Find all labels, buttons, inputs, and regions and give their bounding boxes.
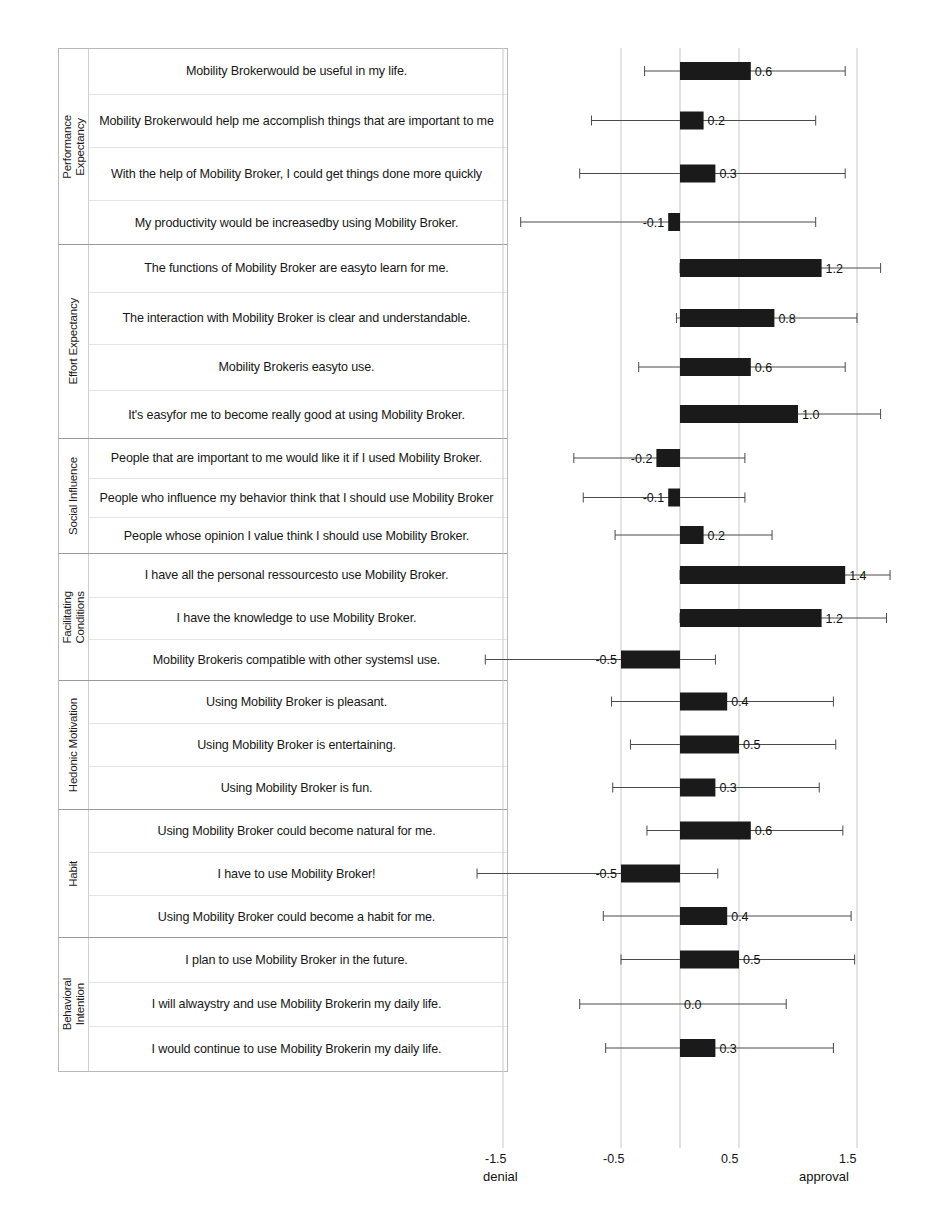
construct-label: Facilitating Conditions xyxy=(59,554,89,680)
value-label: 1.2 xyxy=(826,262,843,276)
statement-text: I have the knowledge to use Mobility Bro… xyxy=(95,611,498,626)
statement-row: With the help of Mobility Broker, I coul… xyxy=(89,148,507,201)
data-row: 0.3 xyxy=(613,779,820,797)
value-bar xyxy=(680,259,822,277)
statement-row: Using Mobility Broker is pleasant. xyxy=(89,681,507,724)
statement-list: I plan to use Mobility Broker in the fut… xyxy=(89,938,507,1071)
data-row: 0.3 xyxy=(580,165,846,183)
value-bar xyxy=(680,165,715,183)
value-label: 0.8 xyxy=(778,312,795,326)
x-axis-tick-label: 1.5 xyxy=(839,1152,856,1166)
statement-list: Using Mobility Broker could become natur… xyxy=(89,810,507,937)
statement-text: It's easyfor me to become really good at… xyxy=(95,408,498,423)
statement-row: I have all the personal ressourcesto use… xyxy=(89,554,507,598)
value-label: 0.3 xyxy=(719,167,736,181)
construct-group: Effort ExpectancyThe functions of Mobili… xyxy=(59,245,507,439)
value-bar xyxy=(680,309,774,327)
statement-row: People that are important to me would li… xyxy=(89,439,507,479)
statement-text: Using Mobility Broker is fun. xyxy=(95,781,498,796)
construct-label-text: Habit xyxy=(67,861,80,887)
construct-group: Facilitating ConditionsI have all the pe… xyxy=(59,554,507,681)
data-row: 1.2 xyxy=(680,259,881,277)
data-row: 1.2 xyxy=(680,609,887,627)
statement-text: Mobility Brokerwould be useful in my lif… xyxy=(95,64,498,79)
value-bar xyxy=(680,112,704,130)
statement-row: Mobility Brokerwould help me accomplish … xyxy=(89,95,507,148)
value-bar xyxy=(656,449,680,467)
construct-label-text: Behavioral Intention xyxy=(61,978,87,1030)
statement-text: I would continue to use Mobility Brokeri… xyxy=(95,1042,498,1057)
data-row: 0.6 xyxy=(645,62,846,80)
statement-text: I plan to use Mobility Broker in the fut… xyxy=(95,953,498,968)
data-row: 0.6 xyxy=(647,822,843,840)
construct-label: Behavioral Intention xyxy=(59,938,89,1071)
value-label: 0.6 xyxy=(755,65,772,79)
statement-text: The functions of Mobility Broker are eas… xyxy=(95,261,498,276)
statement-row: People whose opinion I value think I sho… xyxy=(89,518,507,554)
data-row: 0.2 xyxy=(592,112,816,130)
construct-label: Social Influence xyxy=(59,439,89,553)
statement-text: Using Mobility Broker could become a hab… xyxy=(95,910,498,925)
statement-row: Using Mobility Broker is fun. xyxy=(89,767,507,810)
value-bar xyxy=(680,526,704,544)
statement-list: People that are important to me would li… xyxy=(89,439,507,553)
statement-row: I will alwaystry and use Mobility Broker… xyxy=(89,983,507,1027)
statement-row: Using Mobility Broker could become natur… xyxy=(89,810,507,853)
statement-text: I have to use Mobility Broker! xyxy=(95,867,498,882)
construct-label-text: Facilitating Conditions xyxy=(61,591,87,644)
value-label: 0.6 xyxy=(755,824,772,838)
statement-text: Mobility Brokeris easyto use. xyxy=(95,360,498,375)
statement-list: Mobility Brokerwould be useful in my lif… xyxy=(89,49,507,244)
construct-group: HabitUsing Mobility Broker could become … xyxy=(59,810,507,938)
statement-table: Performance ExpectancyMobility Brokerwou… xyxy=(58,48,508,1072)
data-row: 0.4 xyxy=(603,907,851,925)
value-label: -0.1 xyxy=(643,491,665,505)
value-bar xyxy=(668,213,680,231)
statement-text: The interaction with Mobility Broker is … xyxy=(95,311,498,326)
data-row: 0.8 xyxy=(676,309,857,327)
value-label: 0.3 xyxy=(719,781,736,795)
data-row: -0.2 xyxy=(574,449,745,467)
statement-row: Using Mobility Broker is entertaining. xyxy=(89,724,507,767)
data-row: 0.2 xyxy=(615,526,772,544)
figure-root: Performance ExpectancyMobility Brokerwou… xyxy=(0,0,927,1220)
data-row: -0.5 xyxy=(485,651,715,669)
construct-label: Habit xyxy=(59,810,89,937)
statement-row: Mobility Brokeris easyto use. xyxy=(89,345,507,391)
construct-label-text: Social Influence xyxy=(67,457,80,535)
statement-text: Mobility Brokeris compatible with other … xyxy=(95,653,498,668)
value-label: 1.0 xyxy=(802,408,819,422)
value-label: 0.5 xyxy=(743,953,760,967)
statement-row: People who influence my behavior think t… xyxy=(89,479,507,518)
construct-group: Performance ExpectancyMobility Brokerwou… xyxy=(59,49,507,245)
value-bar xyxy=(680,779,715,797)
value-bar xyxy=(680,822,751,840)
construct-group: Behavioral IntentionI plan to use Mobili… xyxy=(59,938,507,1071)
statement-text: I will alwaystry and use Mobility Broker… xyxy=(95,997,498,1012)
value-bar xyxy=(680,951,739,969)
value-label: -0.2 xyxy=(631,452,653,466)
statement-text: Using Mobility Broker is pleasant. xyxy=(95,695,498,710)
data-row: 1.0 xyxy=(680,405,881,423)
value-label: 1.2 xyxy=(826,612,843,626)
x-axis-tick-label: -1.5 xyxy=(485,1152,507,1166)
statement-row: I plan to use Mobility Broker in the fut… xyxy=(89,938,507,983)
axis-anchor-approval: approval xyxy=(799,1169,849,1184)
data-row: 0.5 xyxy=(621,951,855,969)
construct-group: Hedonic MotivationUsing Mobility Broker … xyxy=(59,681,507,810)
statement-row: I have the knowledge to use Mobility Bro… xyxy=(89,598,507,640)
value-label: 1.4 xyxy=(849,569,866,583)
value-bar xyxy=(680,736,739,754)
statement-row: The interaction with Mobility Broker is … xyxy=(89,293,507,345)
statement-text: People that are important to me would li… xyxy=(95,451,498,466)
statement-row: My productivity would be increasedby usi… xyxy=(89,201,507,245)
value-bar xyxy=(680,907,727,925)
statement-row: I have to use Mobility Broker! xyxy=(89,853,507,896)
statement-text: I have all the personal ressourcesto use… xyxy=(95,568,498,583)
statement-list: I have all the personal ressourcesto use… xyxy=(89,554,507,680)
statement-text: Mobility Brokerwould help me accomplish … xyxy=(95,114,498,129)
data-row: 0.3 xyxy=(606,1039,834,1057)
value-bar xyxy=(680,693,727,711)
statement-list: Using Mobility Broker is pleasant.Using … xyxy=(89,681,507,809)
construct-label: Effort Expectancy xyxy=(59,245,89,438)
